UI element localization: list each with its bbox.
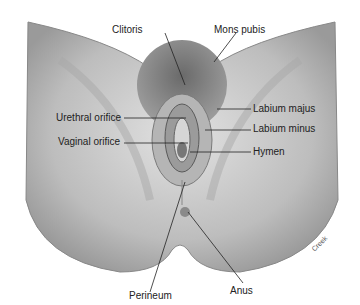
- label-anus: Anus: [230, 286, 253, 296]
- anatomical-illustration: [0, 0, 360, 305]
- label-vaginal-orifice: Vaginal orifice: [58, 137, 120, 147]
- label-labium-majus: Labium majus: [253, 104, 315, 114]
- label-clitoris: Clitoris: [112, 25, 143, 35]
- label-labium-minus: Labium minus: [253, 124, 315, 134]
- label-perineum: Perineum: [129, 291, 172, 301]
- label-urethral-orifice: Urethral orifice: [56, 113, 121, 123]
- label-mons-pubis: Mons pubis: [214, 25, 265, 35]
- label-hymen: Hymen: [253, 147, 285, 157]
